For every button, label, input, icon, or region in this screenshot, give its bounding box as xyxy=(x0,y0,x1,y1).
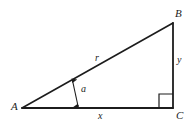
side-label-vertical-y: y xyxy=(177,55,181,65)
vertex-label-a: A xyxy=(11,101,18,112)
angle-marker-arrow-icon xyxy=(73,81,79,107)
segment-hypotenuse-r xyxy=(22,23,173,108)
angle-label-a: a xyxy=(81,84,86,94)
vertex-label-b: B xyxy=(175,8,182,19)
vertex-label-c: C xyxy=(176,110,183,121)
right-angle-square-icon xyxy=(159,94,173,108)
side-label-base-x: x xyxy=(98,111,102,121)
side-label-hypotenuse-r: r xyxy=(95,53,99,63)
geometry-diagram: A B C r x y a xyxy=(0,0,194,125)
